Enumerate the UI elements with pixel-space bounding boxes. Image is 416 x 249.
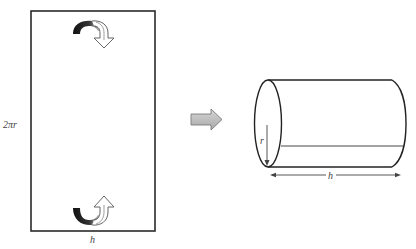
length-label: h: [328, 170, 333, 181]
net-height-label: h: [90, 234, 95, 245]
rectangle-net: [31, 11, 155, 231]
radius-label: r: [260, 135, 264, 146]
cylinder-right-end: [392, 80, 406, 167]
cylinder: [255, 80, 407, 177]
length-arrowhead-left-icon: [270, 173, 276, 177]
net-rectangle: [31, 11, 155, 231]
cylinder-net-diagram: 2πr h r h: [0, 0, 416, 249]
circumference-label: 2πr: [3, 119, 17, 130]
cylinder-left-face: [255, 80, 282, 167]
length-arrowhead-right-icon: [395, 173, 401, 177]
transform-arrow-icon: [191, 109, 222, 130]
